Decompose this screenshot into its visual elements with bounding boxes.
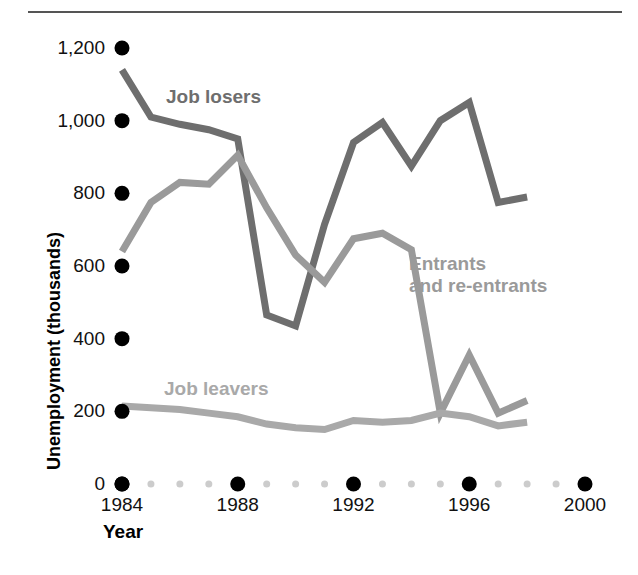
x-tick-label: 1992: [309, 494, 399, 516]
series-label-job-leavers: Job leavers: [164, 378, 269, 400]
series-label-job-losers: Job losers: [166, 86, 261, 108]
x-tick-label: 1988: [193, 494, 283, 516]
series-layer: [122, 70, 527, 430]
y-tick-dot: [115, 186, 130, 201]
x-minor-tick-dot: [437, 481, 444, 488]
x-tick-label: 1984: [77, 494, 167, 516]
x-minor-tick-dot: [147, 481, 154, 488]
y-tick-dot: [115, 404, 130, 419]
y-tick-label: 1,200: [0, 37, 105, 59]
x-tick-label: 2000: [540, 494, 630, 516]
x-minor-tick-dot: [292, 481, 299, 488]
x-minor-tick-dot: [263, 481, 270, 488]
x-tick-label: 1996: [424, 494, 514, 516]
y-tick-label: 0: [0, 473, 105, 495]
x-minor-tick-dot: [495, 481, 502, 488]
series-label-entrants-and-re-entrants: Entrants and re-entrants: [409, 253, 547, 297]
y-tick-dot: [115, 41, 130, 56]
x-axis-title: Year: [103, 521, 143, 543]
y-tick-label: 1,000: [0, 110, 105, 132]
x-minor-tick-dot: [524, 481, 531, 488]
y-axis-title: Unemployment (thousands): [44, 232, 65, 470]
x-tick-dot: [115, 477, 130, 492]
x-minor-tick-dot: [176, 481, 183, 488]
x-minor-tick-dot: [379, 481, 386, 488]
x-minor-tick-dot: [205, 481, 212, 488]
y-tick-dot: [115, 113, 130, 128]
y-tick-dots: [115, 41, 130, 492]
y-tick-dot: [115, 331, 130, 346]
x-tick-dot: [230, 477, 245, 492]
series-line-job-leavers: [122, 406, 527, 430]
x-tick-dot: [346, 477, 361, 492]
x-tick-dot: [578, 477, 593, 492]
x-minor-tick-dot: [321, 481, 328, 488]
x-minor-tick-dot: [408, 481, 415, 488]
x-minor-tick-dot: [553, 481, 560, 488]
chart-figure: 02004006008001,0001,200 1984198819921996…: [0, 0, 638, 575]
y-tick-label: 800: [0, 182, 105, 204]
x-tick-dots: [115, 477, 593, 492]
x-tick-dot: [462, 477, 477, 492]
y-tick-dot: [115, 259, 130, 274]
